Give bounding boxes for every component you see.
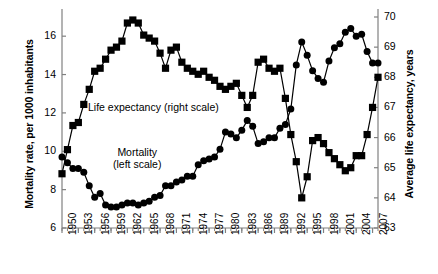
ytick-left-10: 10 xyxy=(30,144,56,156)
data-point xyxy=(374,74,381,81)
xtick-1980: 1980 xyxy=(230,195,241,235)
data-point xyxy=(293,61,300,68)
data-point xyxy=(364,48,371,55)
data-point xyxy=(58,170,65,177)
data-point xyxy=(233,80,240,87)
data-point xyxy=(80,169,87,176)
data-point xyxy=(325,58,332,65)
data-point xyxy=(320,79,327,86)
xtick-2004: 2004 xyxy=(361,195,372,235)
xtick-1953: 1953 xyxy=(83,195,94,235)
xtick-1971: 1971 xyxy=(181,195,192,235)
ytick-right-69: 69 xyxy=(384,40,410,52)
data-point xyxy=(287,106,294,113)
data-point xyxy=(320,140,327,147)
ytick-left-6: 6 xyxy=(30,221,56,233)
data-point xyxy=(298,38,305,45)
data-point xyxy=(244,117,251,124)
mortality-annotation: Mortality (left scale) xyxy=(113,146,161,170)
xtick-1956: 1956 xyxy=(100,195,111,235)
data-point xyxy=(336,40,343,47)
data-point xyxy=(238,92,245,99)
xtick-1968: 1968 xyxy=(165,195,176,235)
data-point xyxy=(162,65,169,72)
data-point xyxy=(75,119,82,126)
data-point xyxy=(233,134,240,141)
data-point xyxy=(86,86,93,93)
xtick-1983: 1983 xyxy=(247,195,258,235)
data-point xyxy=(86,182,93,189)
mortality-annotation-line2: (left scale) xyxy=(113,158,161,170)
data-point xyxy=(358,31,365,38)
ytick-right-65: 65 xyxy=(384,161,410,173)
xtick-2007: 2007 xyxy=(378,195,389,235)
mortality-annotation-line1: Mortality xyxy=(113,146,161,158)
xtick-1962: 1962 xyxy=(132,195,143,235)
data-point xyxy=(309,67,316,74)
xtick-1992: 1992 xyxy=(296,195,307,235)
life-expectancy-annotation: Life expectancy (right scale) xyxy=(88,101,219,113)
data-point xyxy=(156,50,163,57)
left-axis-title: Mortality rate, per 1000 inhabitants xyxy=(23,19,35,229)
xtick-1998: 1998 xyxy=(329,195,340,235)
data-point xyxy=(293,158,300,165)
xtick-1995: 1995 xyxy=(312,195,323,235)
data-point xyxy=(271,134,278,141)
data-point xyxy=(151,38,158,45)
data-point xyxy=(364,131,371,138)
data-point xyxy=(59,154,66,161)
xtick-1950: 1950 xyxy=(67,195,78,235)
data-point xyxy=(347,164,354,171)
data-point xyxy=(287,131,294,138)
data-point xyxy=(304,52,311,59)
xtick-2001: 2001 xyxy=(345,195,356,235)
xtick-1989: 1989 xyxy=(279,195,290,235)
data-point xyxy=(80,101,87,108)
xtick-1977: 1977 xyxy=(214,195,225,235)
ytick-left-12: 12 xyxy=(30,106,56,118)
data-point xyxy=(238,127,245,134)
data-point xyxy=(189,173,196,180)
data-point xyxy=(249,92,256,99)
xtick-1986: 1986 xyxy=(263,195,274,235)
data-point xyxy=(282,95,289,102)
data-series xyxy=(58,16,381,210)
ytick-right-66: 66 xyxy=(384,131,410,143)
data-point xyxy=(217,146,224,153)
ytick-left-8: 8 xyxy=(30,183,56,195)
data-point xyxy=(118,38,125,45)
xtick-1974: 1974 xyxy=(198,195,209,235)
xtick-1959: 1959 xyxy=(116,195,127,235)
data-point xyxy=(282,121,289,128)
data-point xyxy=(369,104,376,111)
xtick-1965: 1965 xyxy=(149,195,160,235)
chart-figure: Mortality rate, per 1000 inhabitants Ave… xyxy=(0,0,438,274)
ytick-right-68: 68 xyxy=(384,70,410,82)
data-point xyxy=(102,56,109,63)
data-point xyxy=(135,19,142,26)
data-point xyxy=(375,60,382,67)
ytick-right-67: 67 xyxy=(384,100,410,112)
ytick-left-16: 16 xyxy=(30,29,56,41)
data-point xyxy=(211,154,218,161)
data-point xyxy=(173,44,180,51)
data-point xyxy=(64,146,71,153)
data-point xyxy=(276,65,283,72)
data-point xyxy=(358,152,365,159)
data-point xyxy=(97,65,104,72)
data-point xyxy=(260,56,267,63)
data-point xyxy=(249,123,256,130)
ytick-left-14: 14 xyxy=(30,68,56,80)
data-point xyxy=(347,25,354,32)
series-line-0 xyxy=(62,29,378,207)
data-point xyxy=(304,173,311,180)
ytick-right-70: 70 xyxy=(384,10,410,22)
data-point xyxy=(244,104,251,111)
